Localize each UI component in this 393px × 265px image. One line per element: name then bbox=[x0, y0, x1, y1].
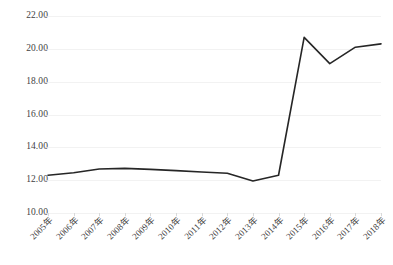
gridline bbox=[48, 16, 381, 17]
x-tick-mark bbox=[125, 213, 126, 216]
x-tick-mark bbox=[99, 213, 100, 216]
y-tick-label: 22.00 bbox=[6, 11, 48, 21]
gridline bbox=[48, 115, 381, 116]
y-tick-label: 16.00 bbox=[6, 110, 48, 120]
x-tick-mark bbox=[330, 213, 331, 216]
x-tick-mark bbox=[74, 213, 75, 216]
x-tick-mark bbox=[48, 213, 49, 216]
y-tick-label: 12.00 bbox=[6, 175, 48, 185]
gridline bbox=[48, 213, 381, 214]
x-tick-mark bbox=[227, 213, 228, 216]
x-tick-mark bbox=[279, 213, 280, 216]
gridline bbox=[48, 82, 381, 83]
gridline bbox=[48, 147, 381, 148]
x-tick-mark bbox=[355, 213, 356, 216]
y-tick-label: 20.00 bbox=[6, 44, 48, 54]
plot-area bbox=[48, 16, 381, 213]
x-tick-mark bbox=[381, 213, 382, 216]
x-tick-mark bbox=[304, 213, 305, 216]
y-tick-label: 10.00 bbox=[6, 208, 48, 218]
x-tick-mark bbox=[176, 213, 177, 216]
y-tick-label: 18.00 bbox=[6, 77, 48, 87]
y-tick-label: 14.00 bbox=[6, 143, 48, 153]
gridline bbox=[48, 180, 381, 181]
line-chart: 22.00 20.00 18.00 16.00 14.00 12.00 10.0… bbox=[0, 0, 393, 265]
x-tick-mark bbox=[150, 213, 151, 216]
x-tick-label: 2005年 bbox=[0, 216, 54, 265]
gridline bbox=[48, 49, 381, 50]
x-tick-mark bbox=[253, 213, 254, 216]
x-tick-mark bbox=[202, 213, 203, 216]
